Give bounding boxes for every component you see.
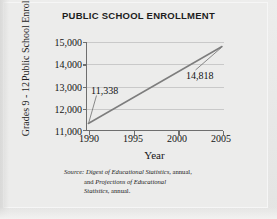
x-tick-label-2005: 2005 bbox=[211, 133, 231, 144]
y-tick-mark-12000 bbox=[83, 109, 87, 110]
y-tick-label-14000: 14,000 bbox=[48, 59, 82, 70]
source-line-2: and Projections of Educational bbox=[64, 177, 254, 187]
source-label: Source: bbox=[64, 168, 84, 175]
source-line2-prefix: and bbox=[84, 178, 95, 185]
y-tick-mark-14000 bbox=[83, 64, 87, 65]
y-tick-label-12000: 12,000 bbox=[48, 103, 82, 114]
x-tick-label-1995: 1995 bbox=[123, 133, 143, 144]
gridline-14000 bbox=[87, 64, 224, 65]
source-line1-rest: , annual, bbox=[169, 168, 192, 175]
source-line-1: Source: Digest of Educational Statistics… bbox=[64, 167, 254, 177]
source-note: Source: Digest of Educational Statistics… bbox=[64, 167, 254, 196]
data-label-14818: 14,818 bbox=[186, 70, 214, 81]
y-tick-label-13000: 13,000 bbox=[48, 81, 82, 92]
gridline-15000 bbox=[87, 42, 224, 43]
source-title-statistics: Statistics bbox=[84, 187, 108, 194]
y-tick-mark-15000 bbox=[83, 42, 87, 43]
page-edge-shading-left bbox=[0, 0, 9, 219]
source-title-digest: Digest of Educational Statistics bbox=[86, 168, 169, 175]
y-tick-mark-11000 bbox=[83, 130, 87, 131]
y-tick-label-11000: 11,000 bbox=[48, 126, 82, 137]
y-axis-tick-labels: 11,000 12,000 13,000 14,000 15,000 bbox=[46, 42, 82, 131]
x-tick-label-2000: 2000 bbox=[167, 133, 187, 144]
data-label-11338: 11,338 bbox=[91, 85, 118, 96]
y-tick-mark-13000 bbox=[83, 87, 87, 88]
page-edge-shading-bottom bbox=[0, 207, 277, 219]
x-axis-title: Year bbox=[86, 149, 223, 161]
y-tick-label-15000: 15,000 bbox=[48, 37, 82, 48]
x-tick-label-1990: 1990 bbox=[79, 133, 99, 144]
source-title-projections: Projections of Educational bbox=[95, 178, 166, 185]
source-line-3: Statistics, annual. bbox=[64, 186, 254, 196]
chart-title: PUBLIC SCHOOL ENROLLMENT bbox=[0, 10, 277, 21]
chart-figure: PUBLIC SCHOOL ENROLLMENT Public School E… bbox=[0, 0, 277, 219]
gridline-12000 bbox=[87, 109, 224, 110]
source-line3-rest: , annual. bbox=[108, 187, 131, 194]
